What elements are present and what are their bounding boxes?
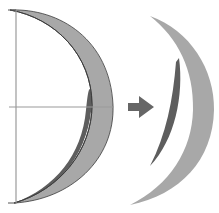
left-composite-crescent [8, 9, 114, 204]
inner-crescent-piece [150, 58, 180, 166]
crescent-decomposition-diagram [0, 0, 219, 213]
right-arrow-icon [128, 96, 154, 118]
